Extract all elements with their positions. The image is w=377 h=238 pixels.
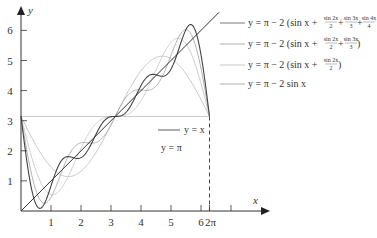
label-2terms-suffix: ) <box>338 59 341 71</box>
frac-3-1-num: sin 2x <box>324 36 339 42</box>
frac-4-2-den: 3 <box>350 23 353 29</box>
label-4terms-text: y = π − 2 (sin x + <box>248 17 318 29</box>
y-tick-label: 4 <box>7 85 13 97</box>
y-equals-x-line <box>21 12 219 211</box>
frac-4-3-num: sin 4x <box>362 15 377 21</box>
series-label-4terms: y = π − 2 (sin x + sin 2x 2 + sin 3x 3 +… <box>220 15 376 29</box>
y-axis-label: y <box>27 4 33 16</box>
label-2terms-prefix: y = π − 2 (sin x + <box>248 59 318 71</box>
curves-group <box>21 12 219 211</box>
x-tick-label: 6 <box>198 216 204 228</box>
x-tick-label: 1 <box>48 216 54 228</box>
label-1term-text: y = π − 2 sin x <box>248 78 306 89</box>
label-3terms-prefix: y = π − 2 (sin x + <box>248 38 318 50</box>
x-tick-label: 3 <box>108 216 114 228</box>
x-tick-label-2pi: 2π <box>205 216 217 228</box>
y-tick-label: 5 <box>7 55 13 67</box>
label-3terms-suffix: ) <box>357 38 360 50</box>
series-label-1term: y = π − 2 sin x <box>220 78 306 89</box>
series-label-ypi: y = π <box>161 142 182 153</box>
x-tick-label: 2 <box>78 216 84 228</box>
x-axis-arrow-icon <box>261 207 270 215</box>
frac-2-1-den: 2 <box>330 65 333 71</box>
x-tick-label: 5 <box>168 216 174 228</box>
frac-4-1-den: 2 <box>330 23 333 29</box>
x-tick-label: 4 <box>138 216 144 228</box>
y-tick-label: 1 <box>7 175 13 187</box>
fourier-series-chart: 123456123456 y x y = x y = π 2π y = π − … <box>0 0 377 238</box>
frac-2-1-num: sin 2x <box>324 57 339 63</box>
y-axis-arrow-icon <box>17 6 25 15</box>
series-label-2terms: y = π − 2 (sin x + sin 2x 2 ) <box>220 57 341 71</box>
axes-group <box>17 6 270 215</box>
frac-3-1-den: 2 <box>330 44 333 50</box>
label-4terms-prefix: y = π − 2 (sin x + <box>248 17 318 29</box>
series-label-yx: y = x <box>184 124 205 135</box>
frac-3-2-den: 3 <box>350 44 353 50</box>
y-tick-label: 3 <box>7 115 13 127</box>
y-tick-label: 2 <box>7 145 13 157</box>
frac-4-3-den: 4 <box>368 23 371 29</box>
series-label-3terms: y = π − 2 (sin x + sin 2x 2 + sin 3x 3 ) <box>220 36 360 50</box>
frac-4-1-num: sin 2x <box>324 15 339 21</box>
y-tick-label: 6 <box>7 24 13 36</box>
x-axis-label: x <box>252 194 258 206</box>
